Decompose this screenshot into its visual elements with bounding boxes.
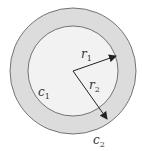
label-c2: c2 [93, 133, 105, 149]
concentric-circles-diagram: r1 r2 c1 c2 [0, 0, 142, 151]
